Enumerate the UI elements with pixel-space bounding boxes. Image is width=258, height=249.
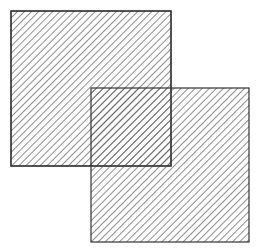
overlapping-squares-diagram [0, 0, 258, 249]
hatched-square-bottom-right [91, 88, 249, 242]
